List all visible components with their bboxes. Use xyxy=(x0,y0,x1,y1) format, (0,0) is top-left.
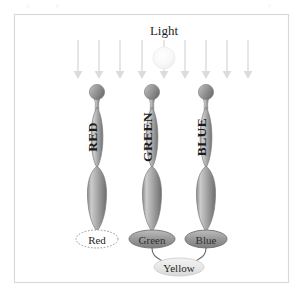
figure-root: g p y Light xyxy=(0,0,304,293)
red-cone-outer-segment-ball xyxy=(89,84,104,99)
result-yellow: Yellow xyxy=(154,258,204,276)
output-green-label: Green xyxy=(139,234,166,246)
light-bulb-icon xyxy=(153,47,175,69)
output-blue-label: Blue xyxy=(196,234,217,246)
blue-cone-outer-segment-ball xyxy=(198,84,213,99)
green-cone-outer-segment-ball xyxy=(144,84,159,99)
red-cone-label: RED xyxy=(85,122,100,152)
green-cone-label: GREEN xyxy=(140,112,155,162)
output-red: Red xyxy=(76,230,118,248)
result-yellow-label: Yellow xyxy=(163,262,194,274)
light-label: Light xyxy=(150,23,179,38)
page-scan-artifacts: g p y xyxy=(26,1,272,9)
svg-text:p: p xyxy=(56,1,60,9)
svg-text:y: y xyxy=(268,1,272,9)
output-green: Green xyxy=(129,230,175,248)
output-red-label: Red xyxy=(88,234,106,246)
svg-text:g: g xyxy=(26,1,30,9)
blue-cone-label: BLUE xyxy=(194,118,209,156)
output-blue: Blue xyxy=(185,230,227,248)
